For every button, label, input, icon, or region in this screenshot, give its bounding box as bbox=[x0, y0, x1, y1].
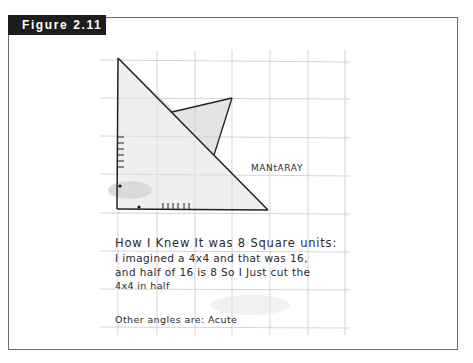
other-angles-note: Other angles are: Acute bbox=[115, 314, 237, 325]
drawing-canvas bbox=[0, 0, 473, 363]
drawing-label: MANtARAY bbox=[251, 163, 303, 173]
dot-left bbox=[118, 184, 121, 187]
explanation-line-1: I imagined a 4x4 and that was 16, bbox=[115, 252, 308, 264]
explanation-heading: How I Knew It was 8 Square units: bbox=[115, 236, 337, 250]
dot-bottom bbox=[137, 205, 140, 208]
explanation-line-3: 4x4 in half bbox=[115, 280, 170, 291]
explanation-line-2: and half of 16 is 8 So I Just cut the bbox=[115, 266, 310, 278]
